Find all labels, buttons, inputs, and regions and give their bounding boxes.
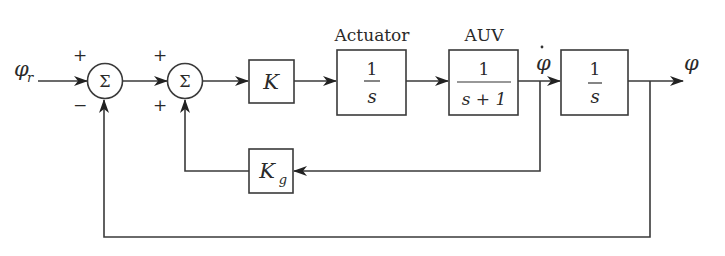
auv-block: 1 s + 1: [449, 50, 518, 115]
block-diagram: φ r Σ + − Σ + + K Actuator 1 s AUV 1 s +…: [0, 0, 725, 256]
phi-dot-label: φ: [536, 46, 551, 75]
summing-junction-2: Σ + +: [153, 45, 203, 115]
sum2-plus-sign-bottom: +: [153, 95, 167, 115]
kg-to-sum2-arrow: [185, 100, 249, 171]
svg-text:K: K: [258, 159, 276, 183]
integrator-block: 1 s: [561, 50, 628, 115]
svg-text:s: s: [590, 86, 599, 107]
svg-text:r: r: [27, 70, 34, 85]
actuator-block: 1 s: [337, 50, 406, 115]
svg-text:s: s: [367, 86, 376, 107]
sum1-plus-sign: +: [73, 45, 87, 65]
svg-text:1: 1: [367, 59, 378, 79]
actuator-caption: Actuator: [334, 25, 411, 45]
svg-text:Σ: Σ: [99, 72, 110, 91]
svg-text:1: 1: [590, 59, 601, 79]
svg-text:K: K: [262, 70, 280, 94]
output-label: φ: [684, 51, 699, 75]
gain-k-block: K: [249, 60, 294, 103]
input-label: φ r: [14, 57, 34, 85]
svg-text:s + 1: s + 1: [462, 89, 507, 109]
svg-text:g: g: [279, 172, 287, 187]
gain-kg-block: K g: [249, 149, 293, 193]
auv-caption: AUV: [464, 25, 505, 45]
sum1-minus-sign: −: [73, 95, 87, 115]
svg-text:φ: φ: [536, 51, 551, 75]
svg-text:Σ: Σ: [179, 72, 190, 91]
svg-text:1: 1: [479, 59, 490, 79]
sum2-plus-sign-top: +: [153, 45, 167, 65]
summing-junction-1: Σ + −: [73, 45, 123, 115]
